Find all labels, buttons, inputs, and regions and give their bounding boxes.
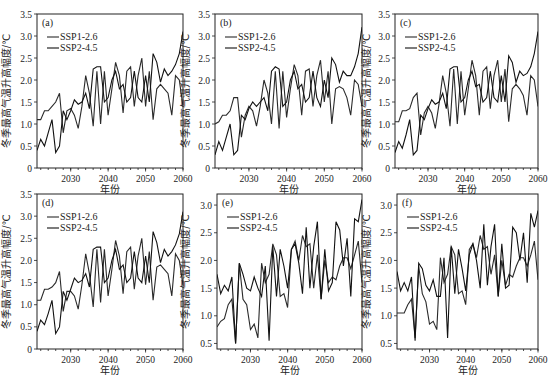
chart-panel-f: 0.51.01.52.02.53.02030204020502060年份冬季最高…: [360, 194, 548, 376]
y-tick-label: 2.0: [380, 256, 392, 266]
panel-label: (f): [402, 197, 412, 209]
y-tick-label: 3.0: [380, 201, 392, 211]
y-tick-label: 0: [205, 164, 210, 174]
y-tick-label: 3.0: [20, 32, 32, 42]
series-line-ssp1-2-6: [217, 236, 362, 344]
legend-entry: SSP1-2.6: [238, 31, 276, 42]
y-tick-label: 1.0: [378, 120, 390, 130]
y-tick-label: 2.0: [378, 76, 390, 86]
legend-entry: SSP1-2.6: [60, 211, 98, 222]
y-tick-label: 1.5: [380, 284, 392, 294]
legend-entry: SSP1-2.6: [420, 211, 458, 222]
x-tick-label: 2060: [529, 355, 548, 365]
x-tick-label: 2040: [277, 174, 296, 184]
y-tick-label: 1.0: [200, 311, 212, 321]
panel-label: (d): [42, 197, 54, 209]
y-axis-label: 冬季最高气温升高幅度/℃: [360, 34, 372, 149]
y-tick-label: 3.0: [20, 212, 32, 222]
legend-entry: SSP1-2.6: [240, 211, 278, 222]
legend-entry: SSP2-4.5: [240, 222, 278, 233]
x-tick-label: 2060: [353, 355, 372, 365]
x-tick-label: 2030: [419, 174, 438, 184]
y-tick-label: 1.5: [20, 98, 32, 108]
y-tick-label: 2.5: [200, 228, 212, 238]
y-axis-label: 冬季最高气温升高幅度/℃: [179, 34, 191, 149]
y-tick-label: 2.0: [20, 76, 32, 86]
y-tick-label: 3.5: [20, 190, 32, 200]
y-tick-label: 0.5: [20, 142, 32, 152]
y-tick-label: 1.5: [200, 284, 212, 294]
x-tick-label: 2030: [61, 174, 80, 184]
chart-panel-e: 0.51.01.52.02.53.02030204020502060年份冬季最高…: [179, 194, 372, 376]
legend-entry: SSP2-4.5: [60, 222, 98, 233]
legend-entry: SSP1-2.6: [418, 31, 456, 42]
y-tick-label: 3.0: [378, 32, 390, 42]
x-tick-label: 2030: [61, 355, 80, 365]
y-tick-label: 3.0: [200, 201, 212, 211]
x-tick-label: 2050: [136, 174, 155, 184]
y-tick-label: 2.0: [198, 76, 210, 86]
x-tick-label: 2060: [353, 174, 372, 184]
y-tick-label: 1.5: [378, 98, 390, 108]
y-axis-label: 冬季最高气温升高幅度/℃: [0, 214, 12, 329]
y-tick-label: 1.0: [20, 300, 32, 310]
chart-panel-d: 00.51.01.52.02.53.03.52030204020502060年份…: [0, 190, 193, 377]
x-tick-label: 2050: [315, 355, 334, 365]
x-tick-label: 2040: [455, 174, 474, 184]
legend-entry: SSP1-2.6: [60, 31, 98, 42]
series-line-ssp1-2-6: [37, 58, 183, 133]
y-tick-label: 1.5: [198, 98, 210, 108]
y-tick-label: 0.5: [200, 339, 212, 349]
x-tick-label: 2030: [241, 355, 260, 365]
y-tick-label: 0.5: [380, 339, 392, 349]
panel-label: (b): [220, 17, 232, 29]
y-tick-label: 3.5: [198, 10, 210, 20]
y-axis-label: 冬季最高气温升高幅度/℃: [179, 214, 191, 329]
y-tick-label: 3.5: [20, 10, 32, 20]
x-tick-label: 2030: [420, 355, 439, 365]
y-tick-label: 0: [385, 164, 390, 174]
panel-label: (c): [400, 17, 411, 29]
y-tick-label: 0: [27, 164, 32, 174]
x-tick-label: 2040: [99, 355, 118, 365]
chart-panel-a: 00.51.01.52.02.53.03.52030204020502060年份…: [0, 10, 193, 196]
panel-label: (e): [222, 197, 233, 209]
y-tick-label: 3.5: [378, 10, 390, 20]
y-tick-label: 2.0: [20, 256, 32, 266]
y-tick-label: 1.5: [20, 278, 32, 288]
y-axis-label: 冬季最高气温升高幅度/℃: [360, 214, 372, 329]
series-line-ssp2-4-5: [37, 32, 183, 153]
y-tick-label: 3.0: [198, 32, 210, 42]
x-tick-label: 2040: [99, 174, 118, 184]
y-tick-label: 2.5: [20, 234, 32, 244]
y-tick-label: 2.5: [20, 54, 32, 64]
y-tick-label: 2.5: [378, 54, 390, 64]
legend-entry: SSP2-4.5: [420, 222, 458, 233]
chart-canvas: 00.51.01.52.02.53.03.52030204020502060年份…: [0, 0, 558, 377]
y-tick-label: 0.5: [198, 142, 210, 152]
x-tick-label: 2060: [529, 174, 548, 184]
series-line-ssp1-2-6: [395, 60, 538, 135]
series-line-ssp2-4-5: [397, 211, 538, 341]
y-tick-label: 0.5: [378, 142, 390, 152]
series-line-ssp2-4-5: [217, 200, 362, 344]
y-tick-label: 1.0: [20, 120, 32, 130]
x-tick-label: 2050: [492, 355, 511, 365]
series-line-ssp1-2-6: [215, 60, 362, 137]
x-tick-label: 2050: [136, 355, 155, 365]
x-tick-label: 2050: [492, 174, 511, 184]
y-tick-label: 1.0: [198, 120, 210, 130]
chart-panel-c: 00.51.01.52.02.53.03.52030204020502060年份…: [360, 10, 548, 196]
x-tick-label: 2060: [174, 174, 193, 184]
y-tick-label: 0.5: [20, 322, 32, 332]
x-axis-label: 年份: [457, 183, 477, 195]
legend-entry: SSP2-4.5: [60, 42, 98, 53]
chart-panel-b: 00.51.01.52.02.53.03.52030204020502060年份…: [179, 10, 372, 196]
y-tick-label: 2.5: [198, 54, 210, 64]
y-axis-label: 冬季最高气温升高幅度/℃: [0, 34, 12, 149]
y-tick-label: 2.0: [200, 256, 212, 266]
legend-entry: SSP2-4.5: [238, 42, 276, 53]
x-axis-label: 年份: [279, 183, 299, 195]
y-tick-label: 0: [27, 345, 32, 355]
series-line-ssp1-2-6: [37, 238, 183, 311]
